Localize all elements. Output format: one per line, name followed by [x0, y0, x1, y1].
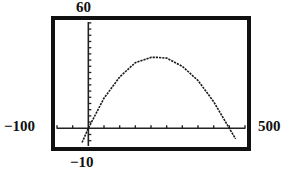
graph-screen — [0, 0, 282, 172]
parabola-curve — [82, 57, 236, 142]
axes — [57, 22, 245, 146]
graph-frame — [53, 18, 249, 149]
